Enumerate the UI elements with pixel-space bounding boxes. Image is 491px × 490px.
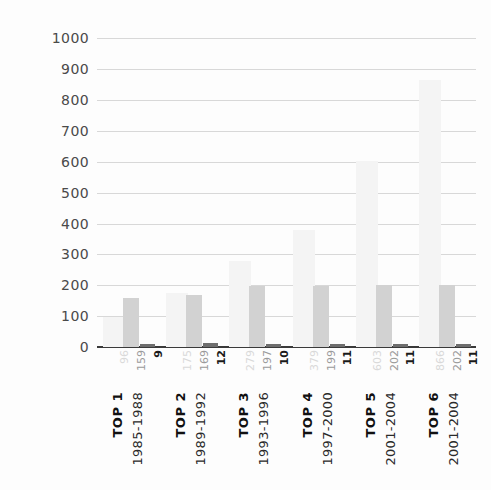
bar-series-3-top-2 <box>203 343 218 347</box>
value-label: 199 <box>326 350 337 371</box>
value-label: 175 <box>182 350 193 371</box>
bar-group <box>160 23 223 347</box>
category-label-group: TOP 41997-2000 <box>287 392 350 487</box>
y-tick-label: 200 <box>39 278 89 292</box>
plot-area <box>97 23 476 347</box>
bar-series-3-top-1 <box>140 344 155 347</box>
value-label: 202 <box>452 350 463 371</box>
bar-series-2-top-3 <box>249 286 265 347</box>
bar-series-1-top-1 <box>103 317 125 347</box>
bar-series-2-top-6 <box>439 285 455 347</box>
category-label-group: TOP 31993-1996 <box>223 392 286 487</box>
bar-chart: 01002003004005006007008009001000 9615991… <box>0 0 491 490</box>
bar-group <box>287 23 350 347</box>
category-label-group: TOP 52001-2004 <box>350 392 413 487</box>
y-tick-label: 0 <box>39 340 89 354</box>
category-name: TOP 3 <box>237 392 250 438</box>
bar-series-2-top-2 <box>186 295 202 347</box>
category-name: TOP 5 <box>364 392 377 438</box>
value-label: 96 <box>119 350 130 364</box>
category-period: 1993-1996 <box>257 392 270 466</box>
value-labels-group: 17516912 <box>160 350 223 386</box>
y-tick-label: 300 <box>39 247 89 261</box>
y-tick-label: 100 <box>39 309 89 323</box>
y-tick-label: 1000 <box>39 31 89 45</box>
bar-series-2-top-4 <box>313 286 329 347</box>
value-label: 279 <box>245 350 256 371</box>
bar-series-3-top-6 <box>456 344 471 347</box>
bar-group <box>350 23 413 347</box>
value-label: 197 <box>262 350 273 371</box>
bar-group <box>413 23 476 347</box>
category-name: TOP 2 <box>174 392 187 438</box>
value-label: 202 <box>389 350 400 371</box>
y-tick-label: 800 <box>39 93 89 107</box>
bar-series-2-top-1 <box>123 298 139 347</box>
value-label: 379 <box>309 350 320 371</box>
bar-series-3-top-3 <box>266 344 281 347</box>
value-label: 159 <box>136 350 147 371</box>
bar-series-3-top-4 <box>330 344 345 347</box>
y-tick-label: 400 <box>39 217 89 231</box>
bar-series-1-top-4 <box>293 230 315 347</box>
category-label-group: TOP 62001-2004 <box>413 392 476 487</box>
y-tick-label: 600 <box>39 155 89 169</box>
bar-series-1-top-5 <box>356 161 378 347</box>
category-period: 1985-1988 <box>131 392 144 466</box>
category-name: TOP 6 <box>427 392 440 438</box>
bar-series-1-top-2 <box>166 293 188 347</box>
y-tick-label: 700 <box>39 124 89 138</box>
value-labels-group: 60320211 <box>350 350 413 386</box>
category-name: TOP 1 <box>111 392 124 438</box>
bar-series-3-top-5 <box>393 344 408 347</box>
value-label: 169 <box>199 350 210 371</box>
category-label-group: TOP 11985-1988 <box>97 392 160 487</box>
bar-group <box>97 23 160 347</box>
bar-series-1-top-6 <box>419 80 441 347</box>
category-period: 1989-1992 <box>194 392 207 466</box>
bar-group <box>223 23 286 347</box>
category-name: TOP 4 <box>301 392 314 438</box>
category-period: 2001-2004 <box>447 392 460 466</box>
category-label-group: TOP 21989-1992 <box>160 392 223 487</box>
value-label: 603 <box>372 350 383 371</box>
y-tick-label: 900 <box>39 62 89 76</box>
y-tick-label: 500 <box>39 186 89 200</box>
value-labels-group: 86620211 <box>413 350 476 386</box>
value-label: 866 <box>435 350 446 371</box>
y-axis-tick-labels: 01002003004005006007008009001000 <box>27 23 89 347</box>
bar-series-2-top-5 <box>376 285 392 347</box>
value-labels-group: 961599 <box>97 350 160 386</box>
bar-series-1-top-3 <box>229 261 251 347</box>
value-labels-group: 27919710 <box>223 350 286 386</box>
category-period: 1997-2000 <box>321 392 334 466</box>
value-labels-group: 37919911 <box>287 350 350 386</box>
category-period: 2001-2004 <box>384 392 397 466</box>
value-label: 11 <box>468 350 479 365</box>
